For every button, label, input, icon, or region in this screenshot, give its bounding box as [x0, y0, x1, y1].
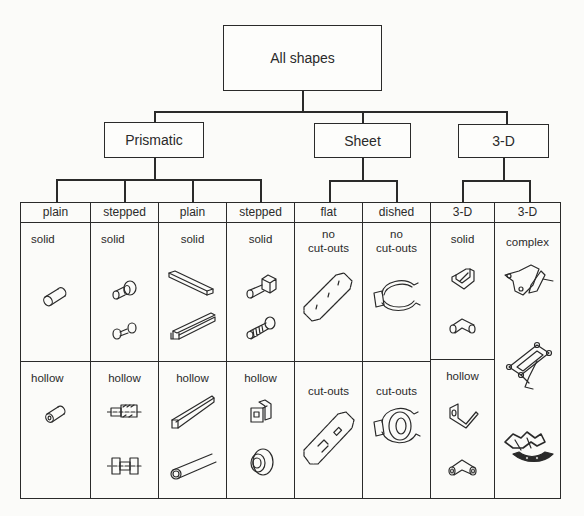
- category-node-sheet: Sheet: [314, 123, 411, 158]
- cell-label: hollow: [21, 371, 90, 385]
- bracket-block-icon: [448, 265, 478, 293]
- spool-section-icon: [107, 456, 143, 476]
- elbow-solid-icon: [448, 315, 478, 335]
- cell-label: hollow: [431, 369, 494, 383]
- cell-label: cut-outs: [363, 384, 430, 398]
- cell-cutouts: cut-outs: [363, 361, 430, 498]
- round-tube-icon: [168, 450, 218, 482]
- connector: [329, 180, 331, 202]
- cell-hollow: hollow: [159, 361, 226, 498]
- t-head-bolt-icon: [244, 273, 278, 301]
- cell-solid: solid: [21, 223, 90, 363]
- cylinder-icon: [41, 285, 71, 307]
- connector: [56, 179, 261, 181]
- column-prismatic-plain-long: plain solid hollow: [159, 203, 227, 498]
- channel-bar-icon: [167, 267, 219, 297]
- cell-no-cutouts: no cut-outs: [363, 223, 430, 363]
- category-label: 3-D: [492, 133, 515, 149]
- connector: [329, 180, 397, 182]
- connector: [506, 111, 508, 124]
- hollow-cylinder-icon: [43, 404, 69, 424]
- connector: [154, 158, 156, 180]
- elbow-hollow-icon: [447, 456, 479, 478]
- cell-solid: solid: [227, 223, 294, 363]
- cell-label: solid: [431, 232, 494, 246]
- column-3d-simple: 3-D solid hollow: [431, 203, 495, 498]
- stepped-shaft-icon: [110, 278, 140, 302]
- column-header: stepped: [227, 203, 294, 223]
- truss-frame-icon: [503, 341, 553, 391]
- cell-complex: complex: [495, 223, 560, 498]
- column-header: 3-D: [431, 203, 494, 223]
- hollow-square-stepped-icon: [247, 398, 275, 428]
- connector: [154, 111, 156, 122]
- category-label: Prismatic: [125, 132, 183, 148]
- cell-no-cutouts: no cut-outs: [295, 223, 362, 363]
- cell-label: hollow: [227, 371, 294, 385]
- cell-label: solid: [91, 232, 158, 246]
- connector: [56, 179, 58, 202]
- i-beam-icon: [167, 309, 219, 343]
- column-header: plain: [159, 203, 226, 223]
- cell-label: cut-outs: [295, 384, 362, 398]
- connector: [302, 91, 304, 111]
- linkage-arm-icon: [501, 261, 555, 301]
- cell-label: hollow: [91, 371, 158, 385]
- column-header: 3-D: [495, 203, 560, 223]
- connector: [124, 179, 126, 202]
- connector: [462, 180, 464, 202]
- column-header: plain: [21, 203, 90, 223]
- column-prismatic-plain: plain solid hollow: [21, 203, 91, 498]
- category-node-prismatic: Prismatic: [104, 122, 204, 158]
- cell-label: no cut-outs: [295, 227, 362, 255]
- cell-hollow: hollow: [431, 359, 494, 498]
- column-header: dished: [363, 203, 430, 223]
- square-tube-icon: [168, 392, 218, 432]
- bent-bracket-icon: [446, 400, 480, 430]
- cell-label: hollow: [159, 371, 226, 385]
- cell-hollow: hollow: [21, 361, 90, 498]
- root-node-all-shapes: All shapes: [223, 25, 382, 91]
- cell-label: solid: [159, 232, 226, 246]
- cell-solid: solid: [91, 223, 158, 363]
- threaded-bolt-icon: [244, 315, 278, 341]
- complex-assembly-icon: [501, 428, 555, 468]
- connector: [260, 179, 262, 202]
- double-stepped-shaft-icon: [111, 320, 139, 340]
- category-node-3d: 3-D: [458, 124, 549, 158]
- classification-table: plain solid hollow stepped solid ho: [20, 202, 561, 499]
- column-header: flat: [295, 203, 362, 223]
- column-sheet-dished: dished no cut-outs cut-outs: [363, 203, 431, 498]
- cell-label: complex: [495, 235, 560, 249]
- flanged-bushing-icon: [247, 446, 275, 478]
- connector: [503, 158, 505, 180]
- column-prismatic-stepped-long: stepped solid hollow: [227, 203, 295, 498]
- cell-cutouts: cut-outs: [295, 361, 362, 498]
- cell-solid: solid: [431, 223, 494, 361]
- cell-hollow: hollow: [227, 361, 294, 498]
- connector: [462, 180, 530, 182]
- cell-label: solid: [21, 232, 90, 246]
- root-label: All shapes: [270, 50, 335, 66]
- flat-plate-cutouts-icon: [300, 406, 358, 468]
- cell-label: solid: [227, 232, 294, 246]
- connector: [362, 158, 364, 180]
- connector: [529, 180, 531, 202]
- cell-label: no cut-outs: [363, 227, 430, 255]
- connector: [396, 180, 398, 202]
- category-label: Sheet: [344, 133, 381, 149]
- column-prismatic-stepped: stepped solid hollow: [91, 203, 159, 498]
- column-header: stepped: [91, 203, 158, 223]
- connector: [362, 111, 364, 123]
- cell-solid: solid: [159, 223, 226, 363]
- column-sheet-flat: flat no cut-outs cut-outs: [295, 203, 363, 498]
- flat-plate-icon: [300, 267, 358, 325]
- stepped-bushing-section-icon: [107, 402, 143, 420]
- connector: [154, 111, 507, 113]
- cell-hollow: hollow: [91, 361, 158, 498]
- connector: [192, 179, 194, 202]
- dished-clip-cutout-icon: [370, 402, 424, 452]
- column-3d-complex: 3-D complex: [495, 203, 560, 498]
- dished-clip-icon: [370, 275, 424, 317]
